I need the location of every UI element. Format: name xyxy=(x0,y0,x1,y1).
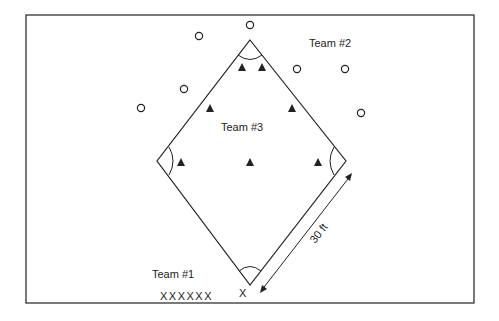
team3-player-triangle-icon xyxy=(246,158,254,166)
arrowhead-down-icon xyxy=(260,285,267,293)
team2-players xyxy=(137,21,364,116)
team2-player xyxy=(246,21,253,28)
distance-arrow xyxy=(260,173,352,293)
team2-label: Team #2 xyxy=(309,37,351,49)
arrowhead-up-icon xyxy=(345,173,352,181)
angle-arc-left xyxy=(169,147,173,175)
team2-player xyxy=(293,65,300,72)
team3-players xyxy=(177,63,322,166)
team2-player xyxy=(195,32,202,39)
team3-player-triangle-icon xyxy=(177,158,185,166)
team3-player-triangle-icon xyxy=(288,104,296,112)
team3-label: Team #3 xyxy=(221,121,263,133)
drill-diagram: 30 ft Team #2 Team #3 Team #1 X XXXXXX xyxy=(0,0,499,321)
angle-arc-right xyxy=(330,147,334,175)
team2-player xyxy=(341,65,348,72)
team2-player xyxy=(137,104,144,111)
angle-arc-bottom xyxy=(239,267,261,272)
team3-player-triangle-icon xyxy=(258,63,266,71)
team1-queue: XXXXXX xyxy=(160,290,213,302)
angle-arc-top xyxy=(238,55,262,60)
team2-player xyxy=(357,109,364,116)
team1-batter-x: X xyxy=(239,287,247,299)
team3-player-triangle-icon xyxy=(314,158,322,166)
team1-label: Team #1 xyxy=(152,268,194,280)
team2-player xyxy=(180,85,187,92)
team3-player-triangle-icon xyxy=(206,104,214,112)
distance-label: 30 ft xyxy=(307,221,330,245)
team3-player-triangle-icon xyxy=(238,63,246,71)
